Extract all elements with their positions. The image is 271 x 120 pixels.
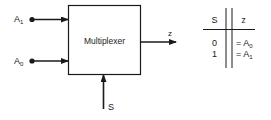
table-row-0-z-prefix: = A: [236, 38, 249, 48]
table-header-s: S: [211, 15, 217, 25]
input-a0-label: A0: [14, 56, 24, 67]
table-row-1-z-prefix: = A: [236, 49, 249, 59]
table-row-1-z: = A1: [236, 49, 253, 60]
table-row-1-s: 1: [212, 49, 217, 59]
table-row-0-z-sub: 0: [249, 43, 253, 49]
select-label: S: [108, 102, 114, 112]
multiplexer-label: Multiplexer: [84, 36, 125, 46]
table-row-1-z-sub: 1: [249, 54, 253, 60]
input-a1-subscript: 1: [20, 19, 24, 25]
multiplexer-diagram: Multiplexer A1 A0 S z S z 0 = A0: [0, 0, 271, 120]
table-row: 0 = A0: [212, 38, 253, 49]
select-input: S: [104, 75, 115, 112]
table-row-0-s: 0: [212, 38, 217, 48]
truth-table: S z 0 = A0 1 = A1: [203, 8, 255, 68]
input-a0-subscript: 0: [20, 61, 24, 67]
output-label: z: [168, 29, 172, 38]
table-header-z: z: [241, 15, 245, 25]
input-a0: A0: [14, 56, 68, 67]
table-row: 1 = A1: [212, 49, 253, 60]
input-a1: A1: [14, 14, 68, 25]
output: z: [141, 29, 176, 42]
input-a1-label: A1: [14, 14, 24, 25]
table-row-0-z: = A0: [236, 38, 253, 49]
